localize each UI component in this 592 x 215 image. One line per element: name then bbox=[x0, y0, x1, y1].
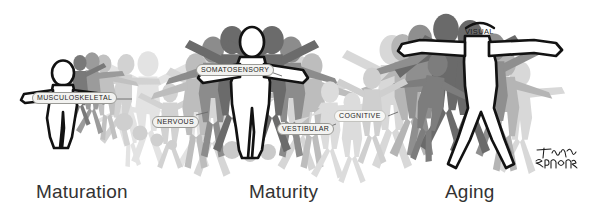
system-label-cognitive: COGNITIVE bbox=[334, 110, 386, 122]
system-label-somatosensory: SOMATOSENSORY bbox=[196, 64, 274, 76]
system-label-nervous: NERVOUS bbox=[152, 116, 199, 128]
system-label-musculoskeletal: MUSCULOSKELETAL bbox=[32, 92, 117, 104]
system-label-visual: VISUAL bbox=[465, 28, 494, 37]
stage-caption-maturity: Maturity bbox=[249, 182, 318, 201]
stage-caption-aging: Aging bbox=[445, 182, 495, 201]
system-label-vestibular: VESTIBULAR bbox=[277, 123, 334, 135]
stage-caption-maturation: Maturation bbox=[36, 182, 128, 201]
lifespan-postural-control-illustration: Maturation Maturity Aging MUSCULOSKELETA… bbox=[0, 0, 592, 215]
